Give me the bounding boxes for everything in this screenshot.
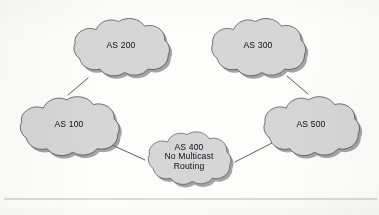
link-as100-as400 bbox=[112, 145, 145, 160]
cloud-body bbox=[148, 132, 231, 185]
cloud-body bbox=[20, 97, 119, 156]
cloud-as100[interactable] bbox=[20, 97, 122, 159]
cloud-as300[interactable] bbox=[212, 18, 309, 78]
cloud-body bbox=[74, 18, 170, 75]
cloud-as200[interactable] bbox=[74, 18, 172, 78]
as-topology-figure: AS 200AS 300AS 100AS 400 No Multicast Ro… bbox=[0, 0, 379, 215]
cloud-as400[interactable] bbox=[148, 132, 233, 188]
topology-canvas bbox=[0, 0, 379, 215]
link-as400-as500 bbox=[235, 143, 272, 162]
cloud-body bbox=[212, 18, 306, 75]
link-as300-as500 bbox=[287, 76, 308, 94]
link-as200-as100 bbox=[68, 78, 88, 95]
cloud-as500[interactable] bbox=[264, 97, 362, 159]
cloud-body bbox=[264, 97, 360, 156]
